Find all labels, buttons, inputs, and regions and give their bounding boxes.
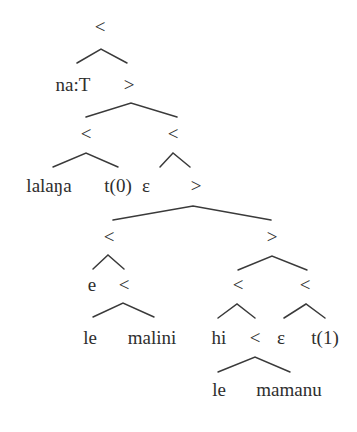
branch-n13	[218, 304, 255, 318]
tree-node-n11: e	[88, 274, 96, 295]
tree-node-n16: malini	[128, 327, 177, 348]
tree-node-n19: ε	[277, 327, 285, 348]
branch-n10	[238, 256, 307, 270]
tree-node-n5: lalaŋa	[26, 175, 72, 196]
tree-node-n10: >	[267, 226, 278, 247]
tree-branches	[53, 49, 325, 372]
tree-node-n14: <	[300, 274, 311, 295]
branch-n3	[53, 153, 118, 167]
branch-n18	[218, 357, 290, 372]
tree-node-n21: le	[212, 379, 226, 400]
tree-node-n2: >	[124, 74, 135, 95]
tree-node-n22: mamanu	[256, 379, 322, 400]
branch-n14	[284, 304, 325, 318]
tree-node-n20: t(1)	[311, 327, 338, 349]
branch-n4	[160, 153, 190, 167]
tree-node-n1: na:T	[56, 74, 91, 95]
tree-node-n0: <	[95, 16, 106, 37]
branch-n0	[77, 49, 127, 63]
tree-node-n4: <	[168, 123, 179, 144]
tree-node-n15: le	[83, 327, 97, 348]
tree-node-n18: <	[250, 327, 261, 348]
branch-n2	[86, 103, 177, 117]
branch-n9	[93, 255, 124, 269]
syntax-tree-diagram: <na:T><<lalaŋat(0)ε><>e<<<lemalinihi<εt(…	[0, 0, 357, 432]
tree-node-n7: ε	[142, 175, 150, 196]
branch-n12	[93, 303, 154, 317]
tree-node-n17: hi	[212, 327, 227, 348]
tree-node-n8: >	[191, 175, 202, 196]
branch-n8	[113, 206, 271, 220]
tree-node-n13: <	[233, 274, 244, 295]
tree-node-n3: <	[81, 123, 92, 144]
tree-node-n6: t(0)	[104, 175, 131, 197]
tree-node-n9: <	[104, 226, 115, 247]
tree-node-n12: <	[119, 274, 130, 295]
